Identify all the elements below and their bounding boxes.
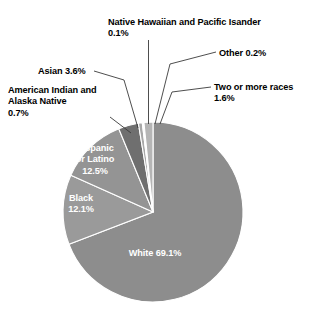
slice-label-native-hawaiian: Native Hawaiian and Pacific Isander 0.1% xyxy=(108,17,261,40)
pie-chart-figure: Native Hawaiian and Pacific Isander 0.1%… xyxy=(0,0,317,336)
slice-label-hispanic-or-latino: Hispanic or Latino 12.5% xyxy=(66,143,124,177)
slice-label-american-indian: American Indian and Alaska Native 0.7% xyxy=(8,85,96,119)
leader-line-asian xyxy=(94,71,138,128)
slice-label-asian: Asian 3.6% xyxy=(38,66,86,77)
slice-label-two-or-more-races: Two or more races 1.6% xyxy=(214,82,293,105)
leader-lines xyxy=(94,40,216,133)
slice-label-white: White 69.1% xyxy=(116,248,194,259)
slice-label-black: Black 12.1% xyxy=(56,193,106,216)
slice-label-other: Other 0.2% xyxy=(219,48,266,59)
pie-chart-canvas xyxy=(0,0,317,336)
leader-line-two-or-more-races xyxy=(160,87,211,124)
